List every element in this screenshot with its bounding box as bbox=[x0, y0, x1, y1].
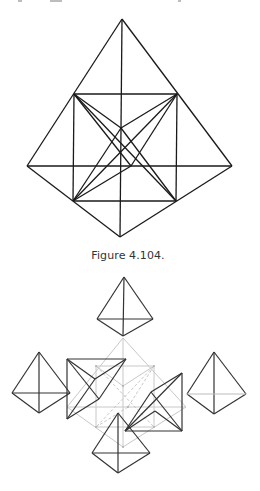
edge bbox=[176, 94, 177, 201]
exploded-tetrahedra-diagram bbox=[12, 277, 246, 473]
tetrahedron-top bbox=[97, 277, 153, 336]
edge bbox=[27, 19, 122, 166]
figure-canvas bbox=[0, 0, 260, 491]
edge bbox=[73, 128, 121, 201]
tetrahedron-left bbox=[12, 352, 70, 413]
figure-4-104-diagram bbox=[27, 19, 232, 237]
tetrahedron-right bbox=[187, 352, 246, 414]
figure-caption: Figure 4.104. bbox=[0, 249, 256, 262]
edge bbox=[73, 94, 74, 201]
edge bbox=[131, 94, 177, 166]
